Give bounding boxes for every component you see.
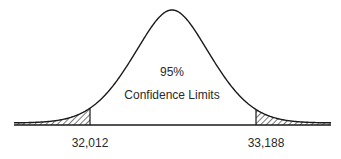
lower-limit-label: 32,012: [72, 136, 109, 150]
percent-label: 95%: [160, 65, 184, 79]
confidence-limits-label: Confidence Limits: [124, 88, 219, 102]
upper-limit-label: 33,188: [248, 136, 285, 150]
normal-distribution-chart: 95% Confidence Limits 32,012 33,188: [0, 0, 341, 159]
